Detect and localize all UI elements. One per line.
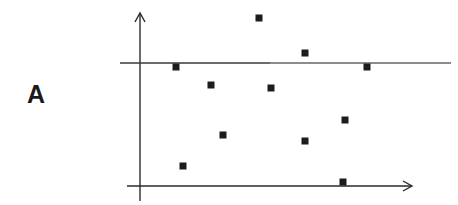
data-point: [173, 64, 180, 71]
scatter-plot: [0, 0, 458, 205]
data-point: [268, 85, 275, 92]
data-point: [256, 15, 263, 22]
data-point: [364, 64, 371, 71]
data-point: [180, 163, 187, 170]
data-markers: [173, 15, 371, 186]
data-point: [340, 179, 347, 186]
data-point: [302, 138, 309, 145]
data-point: [220, 132, 227, 139]
data-point: [208, 82, 215, 89]
data-point: [302, 50, 309, 57]
data-point: [342, 117, 349, 124]
